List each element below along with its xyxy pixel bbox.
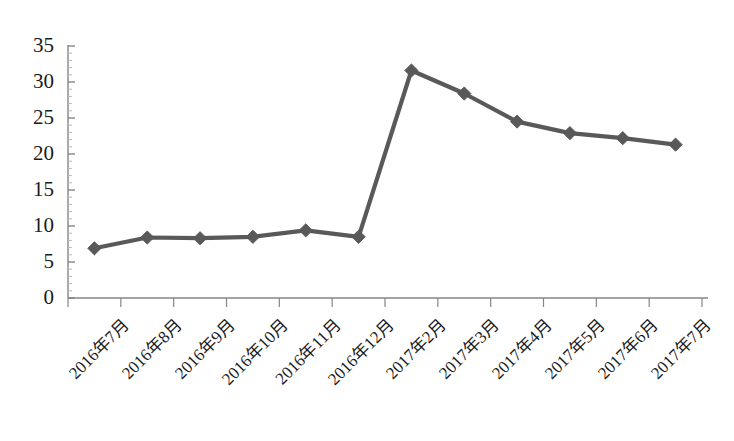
y-axis-tick-label: 20 bbox=[14, 143, 54, 164]
x-axis-ticks bbox=[68, 298, 702, 307]
data-series bbox=[88, 64, 682, 255]
data-point-marker bbox=[299, 224, 312, 237]
data-point-marker bbox=[352, 230, 365, 243]
y-axis-tick-label: 25 bbox=[14, 107, 54, 128]
y-axis-tick-label: 15 bbox=[14, 179, 54, 200]
data-point-marker bbox=[563, 127, 576, 140]
y-axis-tick-label: 10 bbox=[14, 215, 54, 236]
y-axis-tick-label: 0 bbox=[14, 287, 54, 308]
y-axis-tick-label: 30 bbox=[14, 71, 54, 92]
data-point-marker bbox=[88, 242, 101, 255]
plot-area bbox=[0, 0, 734, 441]
y-axis-tick-label: 35 bbox=[14, 35, 54, 56]
axis-lines bbox=[68, 45, 708, 298]
data-point-marker bbox=[141, 231, 154, 244]
data-point-marker bbox=[193, 232, 206, 245]
y-axis-ticks bbox=[68, 46, 75, 298]
data-point-marker bbox=[669, 138, 682, 151]
data-point-marker bbox=[405, 64, 418, 77]
line-chart: 05101520253035 2016年7月2016年8月2016年9月2016… bbox=[0, 0, 734, 441]
data-point-marker bbox=[246, 230, 259, 243]
data-point-marker bbox=[616, 132, 629, 145]
y-axis-tick-label: 5 bbox=[14, 251, 54, 272]
